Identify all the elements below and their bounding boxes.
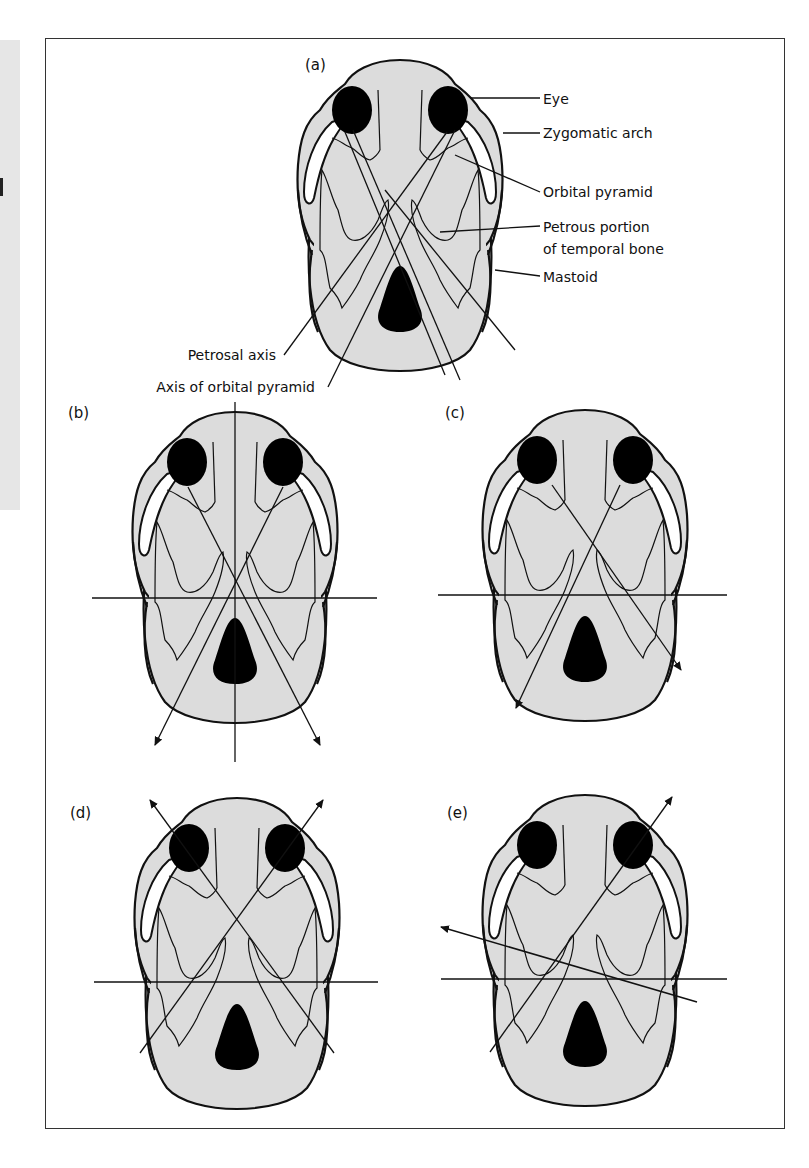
skull-figure: (a) Eye Zygomatic arch Orbital pyramid P… [0,0,809,1168]
label-petrous-line1: Petrous portion [543,219,650,235]
panel-label-e: (e) [447,804,468,822]
label-eye: Eye [543,91,569,107]
label-orbital-pyramid: Orbital pyramid [543,184,653,200]
panel-e: (e) [441,795,727,1106]
label-petrosal-axis: Petrosal axis [188,347,276,363]
label-mastoid: Mastoid [543,269,598,285]
panel-a: (a) Eye Zygomatic arch Orbital pyramid P… [156,56,664,395]
label-axis-orbital-pyramid: Axis of orbital pyramid [156,379,315,395]
label-petrous-line2: of temporal bone [543,241,664,257]
panel-label-d: (d) [70,804,91,822]
label-zygomatic-arch: Zygomatic arch [543,125,653,141]
panel-label-a: (a) [305,56,326,74]
panel-d: (d) [70,798,378,1109]
panel-label-c: (c) [445,404,465,422]
panel-c: (c) [438,404,727,721]
panel-label-b: (b) [68,404,89,422]
panel-b: (b) [68,402,377,762]
